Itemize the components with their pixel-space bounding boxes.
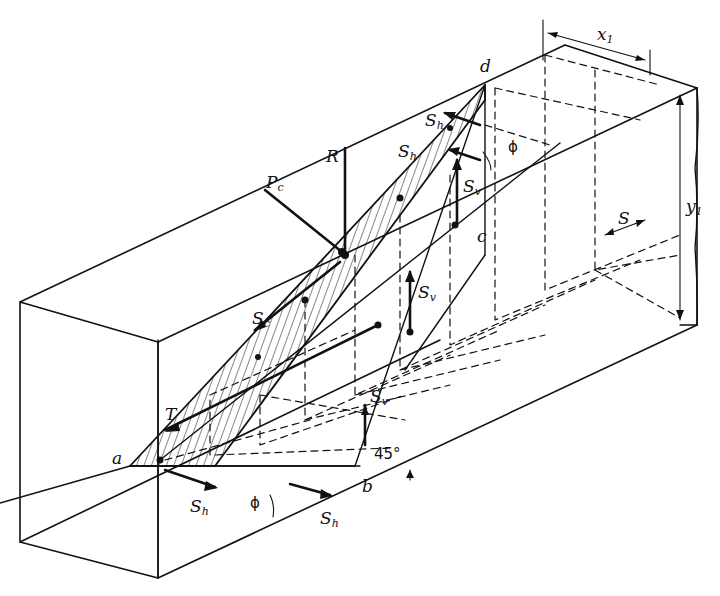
force-Sh-label-bottom: Sh: [320, 510, 339, 529]
dimension-y1-label: y1: [686, 198, 703, 217]
shear-plane-lines: [0, 85, 560, 503]
phi-arc-bottom: [270, 495, 274, 517]
force-Sh-label-mid: Sh: [398, 143, 417, 162]
stirrup-spacing-S-label: S: [618, 210, 630, 227]
torque-T-label: T: [165, 406, 176, 423]
angle-45-label: 45°: [374, 447, 401, 462]
beam-end-face: [20, 302, 158, 578]
force-Sh-label-bottom-left: Sh: [190, 498, 209, 517]
phi-arc-top: [483, 152, 491, 170]
force-Sv-label-bottom: Sv: [370, 388, 388, 407]
force-Sv-label-mid: Sv: [418, 284, 436, 303]
dimension-x1-label: x1: [597, 26, 614, 45]
diagram-canvas: a b c d R Pc Sc T Sh Sh Sh Sh Sv Sv Sv x…: [0, 0, 720, 596]
force-Pc-label: Pc: [266, 174, 284, 193]
beam-drawing: [0, 0, 720, 596]
force-Sv-label-top: Sv: [463, 178, 481, 197]
angle-phi-label-bottom: ϕ: [250, 496, 260, 511]
point-b-label: b: [362, 478, 373, 495]
point-d-label: d: [480, 58, 491, 75]
compression-strut: [130, 85, 485, 466]
point-c-label: c: [477, 228, 487, 245]
point-a-label: a: [112, 450, 122, 467]
force-Sh-label-top: Sh: [425, 112, 444, 131]
load-Pc-line: [265, 190, 342, 252]
force-Sc-label: Sc: [252, 310, 270, 329]
beam-bottom-edges: [20, 88, 697, 578]
force-R-label: R: [326, 148, 339, 165]
angle-phi-label-top: ϕ: [508, 140, 518, 155]
